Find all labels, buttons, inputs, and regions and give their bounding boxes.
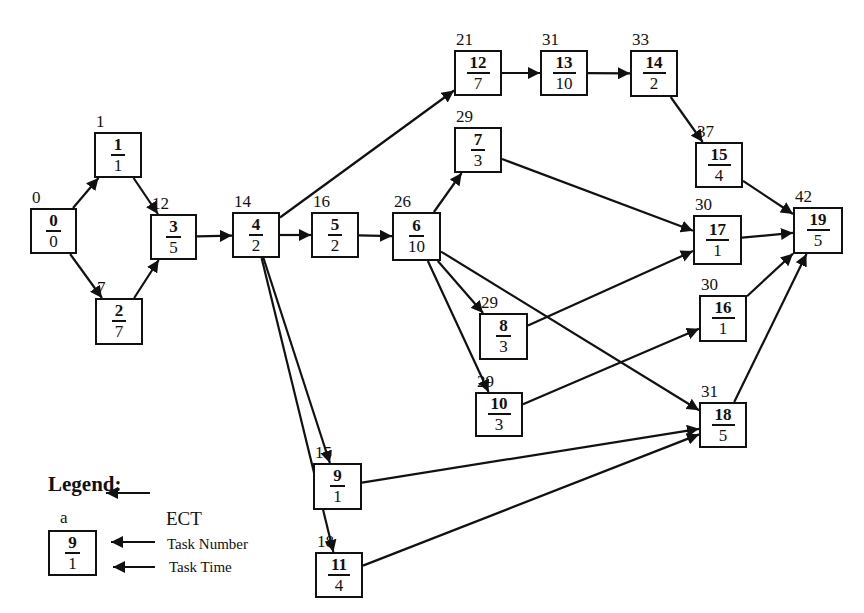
edge-3-to-4 [197, 236, 232, 237]
task-node-12: 127 [454, 50, 502, 96]
task-node-18: 185 [699, 402, 747, 448]
node-ect-label: 29 [481, 294, 498, 311]
node-ect-label: 14 [234, 193, 251, 210]
task-number: 17 [706, 221, 729, 241]
task-number: 14 [643, 54, 666, 74]
task-number: 5 [328, 216, 343, 236]
task-node-19: 195 [793, 207, 843, 254]
task-number: 19 [807, 211, 830, 231]
task-number: 10 [488, 395, 511, 415]
task-time: 2 [650, 74, 659, 93]
edge-6-to-7 [434, 173, 462, 212]
task-number: 0 [46, 212, 61, 232]
task-node-2: 27 [95, 298, 143, 345]
task-time: 4 [335, 576, 344, 595]
task-time: 1 [114, 156, 123, 175]
task-node-1: 11 [94, 132, 142, 178]
task-number: 12 [467, 54, 490, 74]
task-node-5: 52 [311, 212, 359, 258]
task-node-15: 154 [695, 142, 743, 188]
task-node-16: 161 [699, 295, 747, 342]
task-time: 7 [115, 322, 124, 341]
task-node-8: 83 [479, 313, 528, 360]
task-time: 5 [814, 231, 823, 250]
node-ect-label: 7 [97, 279, 106, 296]
task-node-4: 42 [232, 212, 280, 258]
edge-15-to-19 [743, 181, 793, 214]
task-node-13: 1310 [540, 50, 588, 96]
legend-label-ect: ECT [166, 510, 202, 527]
edge-16-to-19 [747, 254, 793, 297]
node-ect-label: 0 [32, 189, 41, 206]
task-time: 5 [719, 426, 728, 445]
legend-title: Legend: [48, 472, 122, 497]
task-time: 3 [499, 337, 508, 356]
task-number: 7 [471, 131, 486, 151]
task-time: 3 [495, 415, 504, 434]
edge-8-to-17 [528, 251, 693, 325]
edge-0-to-1 [73, 178, 98, 208]
node-ect-label: 16 [313, 193, 330, 210]
edge-5-to-6 [359, 235, 392, 236]
legend-sample-time: 1 [68, 554, 77, 573]
task-number: 9 [330, 467, 345, 487]
node-ect-label: 31 [542, 31, 559, 48]
task-node-10: 103 [475, 392, 523, 437]
task-number: 13 [553, 54, 576, 74]
task-node-14: 142 [630, 50, 678, 97]
task-node-9: 91 [313, 463, 362, 510]
task-number: 8 [496, 317, 511, 337]
node-ect-label: 15 [315, 444, 332, 461]
legend-label-task-number: Task Number [167, 536, 248, 553]
task-time: 7 [474, 74, 483, 93]
task-node-6: 610 [392, 212, 441, 261]
task-node-3: 35 [150, 214, 197, 260]
task-time: 1 [713, 241, 722, 260]
task-number: 3 [166, 218, 181, 238]
edge-11-to-18 [363, 434, 699, 565]
task-time: 2 [252, 236, 261, 255]
edge-4-to-9 [263, 258, 329, 463]
task-number: 1 [111, 136, 126, 156]
task-node-11: 114 [315, 552, 363, 598]
node-ect-label: 30 [695, 196, 712, 213]
node-ect-label: 29 [477, 373, 494, 390]
task-time: 1 [333, 487, 342, 506]
node-ect-label: 33 [632, 31, 649, 48]
task-node-17: 171 [693, 215, 742, 265]
task-number: 4 [249, 216, 264, 236]
task-node-0: 00 [30, 208, 77, 254]
task-time: 0 [49, 232, 58, 251]
node-ect-label: 29 [456, 108, 473, 125]
edge-7-to-17 [502, 159, 693, 231]
node-ect-label: 30 [701, 276, 718, 293]
node-ect-label: 37 [697, 123, 714, 140]
task-time: 5 [169, 238, 178, 257]
task-node-7: 73 [454, 127, 502, 173]
legend-arrows [106, 493, 155, 567]
node-ect-label: 42 [795, 188, 812, 205]
task-number: 2 [112, 302, 127, 322]
task-time: 10 [408, 237, 425, 256]
task-number: 18 [712, 406, 735, 426]
node-ect-label: 21 [456, 31, 473, 48]
node-ect-label: 31 [701, 383, 718, 400]
task-number: 16 [712, 299, 735, 319]
task-time: 4 [715, 166, 724, 185]
task-number: 11 [328, 556, 350, 576]
node-ect-label: 26 [394, 193, 411, 210]
legend-label-task-time: Task Time [169, 559, 232, 576]
node-ect-label: 12 [152, 195, 169, 212]
task-time: 1 [719, 319, 728, 338]
precedence-diagram: 0001117271235144216522661021127311310331… [0, 0, 864, 613]
edge-9-to-18 [362, 429, 699, 483]
node-ect-label: 1 [96, 113, 105, 130]
task-number: 15 [708, 146, 731, 166]
task-number: 6 [409, 217, 424, 237]
edge-6-to-8 [438, 261, 483, 313]
edge-17-to-19 [742, 233, 793, 238]
legend-sample-task: 9 [65, 534, 80, 554]
legend-sample-node: 9 1 [48, 530, 97, 576]
task-time: 10 [556, 74, 573, 93]
task-time: 2 [331, 236, 340, 255]
